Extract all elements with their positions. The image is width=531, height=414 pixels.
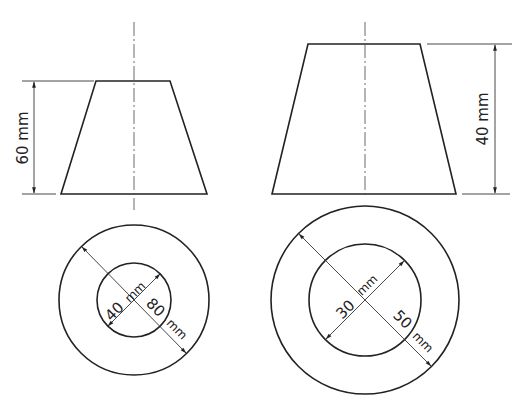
frustum-b-outer-unit: mm: [410, 329, 436, 355]
frustum-a-plan: 40 mm 80 mm: [59, 225, 209, 375]
frustum-b-inner-value: 30: [332, 296, 358, 322]
frustum-a-height-label: 60 mm: [14, 111, 32, 164]
frustum-a-outer-unit: mm: [164, 316, 190, 342]
frustum-b-outline: [272, 44, 456, 194]
frustum-b-inner-unit: mm: [354, 272, 380, 298]
frustum-a-inner-unit: mm: [122, 279, 148, 305]
frustum-a-outer-value: 80: [142, 294, 168, 320]
frustum-b-height-label: 40 mm: [474, 92, 492, 145]
technical-drawing: 60 mm 40 mm 80 mm 40 mm 30 mm 50 mm: [0, 0, 531, 414]
frustum-b-elevation: 40 mm: [272, 22, 512, 198]
frustum-b-plan: 30 mm 50 mm: [271, 206, 459, 394]
frustum-a-elevation: 60 mm: [14, 22, 207, 210]
frustum-a-inner-value: 40: [101, 298, 127, 324]
